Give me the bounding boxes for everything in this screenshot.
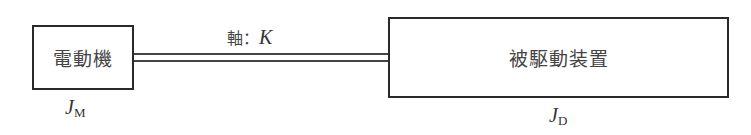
driven-device-label: 被駆動装置: [509, 44, 609, 71]
shaft-label-separator: ：: [243, 29, 259, 48]
driven-device-box: 被駆動装置: [388, 17, 729, 98]
shaft-line-bottom: [134, 60, 388, 62]
driven-inertia-label: JD: [549, 104, 567, 129]
shaft-line-top: [134, 53, 388, 55]
shaft-label-text: 軸: [227, 29, 243, 48]
motor-box: 電動機: [32, 25, 134, 90]
shaft-stiffness-symbol: K: [259, 26, 272, 48]
motor-inertia-subscript: M: [74, 105, 86, 120]
motor-inertia-label: JM: [65, 96, 85, 121]
driven-inertia-subscript: D: [558, 113, 567, 128]
driven-inertia-symbol: J: [549, 104, 558, 126]
shaft-label: 軸：K: [227, 25, 272, 49]
motor-label: 電動機: [53, 44, 113, 71]
motor-inertia-symbol: J: [65, 96, 74, 118]
